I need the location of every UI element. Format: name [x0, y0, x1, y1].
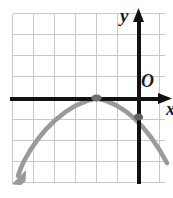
x-axis-label: x — [166, 100, 173, 118]
y-axis-arrowhead — [133, 8, 144, 22]
y-intercept-point — [134, 113, 143, 120]
y-axis-label: y — [120, 6, 128, 25]
parabola-figure: y O x — [0, 0, 173, 198]
origin-label: O — [141, 72, 154, 90]
parabola-curve — [18, 98, 167, 176]
coordinate-plane-svg — [0, 0, 173, 198]
vertex-point — [91, 95, 101, 102]
